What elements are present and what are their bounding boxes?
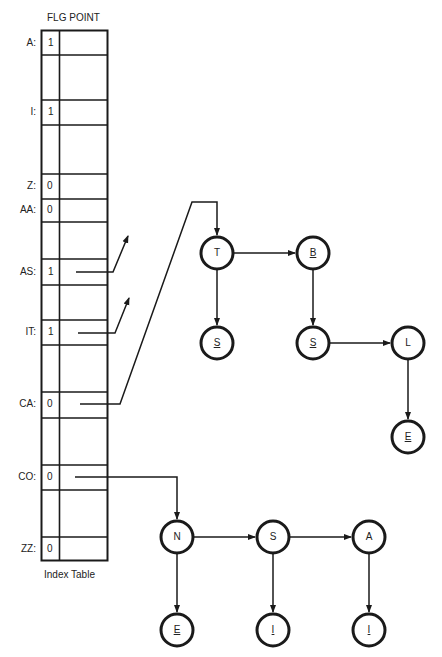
node-label-L: L [392, 337, 424, 349]
flag-Z: 0 [47, 180, 53, 192]
node-label-E-under-N: E [161, 624, 193, 636]
it-pointer-arrow [78, 298, 129, 333]
row-key-Z: Z: [0, 180, 36, 192]
table-header: FLG POINT [47, 12, 100, 24]
flag-A: 1 [48, 37, 54, 49]
table-caption: Index Table [44, 569, 95, 581]
flag-CA: 0 [47, 398, 53, 410]
as-pointer-arrow [76, 236, 128, 272]
node-label-I-under-A: I [353, 624, 385, 636]
flag-ZZ: 0 [47, 543, 53, 555]
index-table-diagram [0, 0, 442, 657]
node-label-S-under-B: S [297, 337, 329, 349]
node-label-I-under-S: I [257, 624, 289, 636]
row-key-AA: AA: [0, 204, 36, 216]
ca-pointer-arrow [80, 202, 217, 404]
node-label-N: N [161, 531, 193, 543]
node-label-S-under-T: S [201, 337, 233, 349]
flag-AA: 0 [47, 204, 53, 216]
node-label-A: A [353, 531, 385, 543]
row-key-I: I: [0, 106, 36, 118]
node-label-T: T [201, 247, 233, 259]
row-key-ZZ: ZZ: [0, 543, 36, 555]
flag-I: 1 [48, 106, 54, 118]
flag-CO: 0 [47, 471, 53, 483]
node-label-B: B [297, 247, 329, 259]
row-key-IT: IT: [0, 326, 36, 338]
node-label-S-co: S [257, 531, 289, 543]
flag-AS: 1 [48, 266, 54, 278]
row-key-AS: AS: [0, 266, 36, 278]
flag-IT: 1 [48, 326, 54, 338]
co-pointer-arrow [75, 477, 177, 519]
row-key-CA: CA: [0, 398, 36, 410]
row-key-CO: CO: [0, 471, 36, 483]
node-label-E-under-L: E [392, 431, 424, 443]
row-key-A: A: [0, 37, 36, 49]
